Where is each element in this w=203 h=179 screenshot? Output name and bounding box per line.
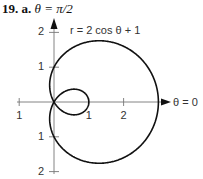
- x-tick-label: 2: [121, 110, 127, 121]
- y-tick-label: 1: [38, 131, 44, 142]
- x-tick-label: 1: [86, 110, 92, 121]
- vertical-axis-label: θ = π/2: [35, 1, 73, 16]
- equation-label: r = 2 cos θ + 1: [70, 24, 140, 36]
- exercise-number: 19.: [2, 1, 18, 16]
- y-tick-label: 2: [38, 26, 44, 37]
- y-tick-label: 2: [38, 166, 44, 177]
- figure-heading: 19. a. θ = π/2: [2, 1, 73, 17]
- polar-axis-label: θ = 0: [173, 97, 198, 108]
- exercise-part: a.: [22, 1, 32, 16]
- y-tick-label: 1: [38, 61, 44, 72]
- x-tick-label: 1: [16, 110, 22, 121]
